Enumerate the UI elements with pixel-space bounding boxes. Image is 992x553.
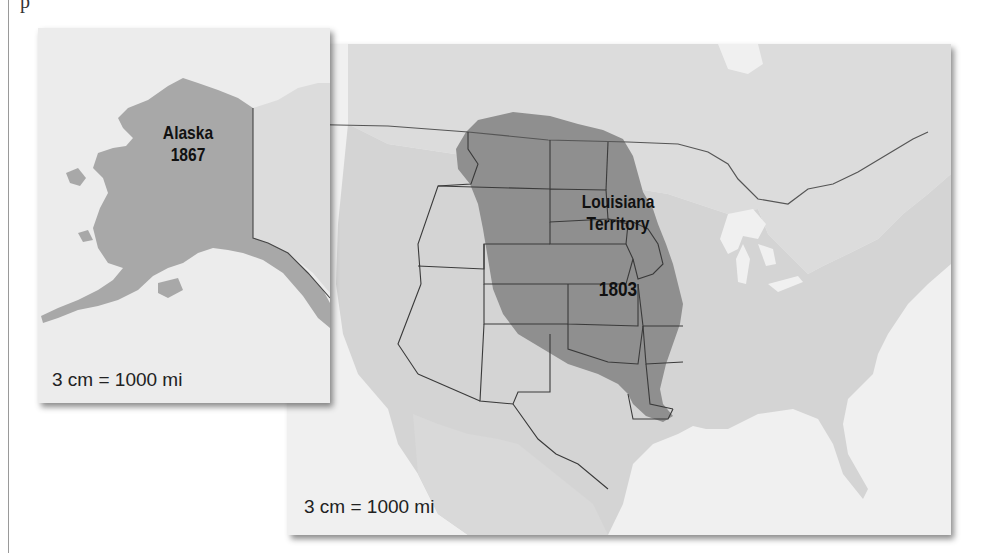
alaska-name: Alaska — [147, 122, 229, 144]
alaska-year: 1867 — [147, 144, 229, 166]
territory-name-line2: Territory — [569, 213, 667, 235]
main-map-scale: 3 cm = 1000 mi — [304, 496, 434, 518]
alaska-map-graphic — [38, 28, 330, 403]
louisiana-territory-label: Louisiana Territory — [569, 191, 667, 235]
page-edge-line — [8, 0, 9, 553]
louisiana-year-label: 1803 — [585, 277, 651, 301]
alaska-map-scale: 3 cm = 1000 mi — [52, 369, 182, 391]
louisiana-territory-map: Louisiana Territory 1803 3 cm = 1000 mi — [288, 44, 951, 535]
territory-name-line1: Louisiana — [569, 191, 667, 213]
alaska-inset-map: Alaska 1867 3 cm = 1000 mi — [38, 28, 330, 403]
alaska-label: Alaska 1867 — [147, 122, 229, 166]
cut-off-text: p — [20, 0, 30, 13]
